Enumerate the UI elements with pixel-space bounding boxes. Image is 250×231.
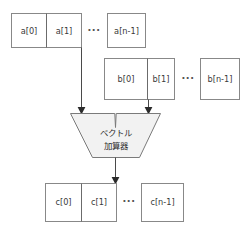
vector-b-cell-1-label: b[1] (153, 74, 170, 84)
vector-a-ellipsis: ··· (87, 25, 100, 36)
vector-b-ellipsis: ··· (181, 73, 194, 84)
vector-b-cell-0-label: b[0] (118, 74, 135, 84)
vector-c-cell-0-label: c[0] (55, 197, 71, 207)
vector-b-cell-last-label: b[n-1] (208, 74, 233, 84)
vector-adder-diagram: a[0] a[1] ··· a[n-1] b[0] b[1] ··· b[n-1… (0, 0, 250, 231)
vector-c-row: c[0] c[1] ··· c[n-1] (46, 184, 184, 222)
arrow-b-to-adder (145, 100, 153, 115)
vector-a-cell-0-label: a[0] (21, 26, 38, 36)
vector-c-ellipsis: ··· (122, 196, 135, 207)
vector-a-cell-1-label: a[1] (56, 26, 73, 36)
arrow-a-to-adder (78, 48, 86, 115)
vector-b-row: b[0] b[1] ··· b[n-1] (105, 59, 240, 100)
adder-label-line2: 加算器 (104, 141, 129, 151)
diagram-canvas: a[0] a[1] ··· a[n-1] b[0] b[1] ··· b[n-1… (0, 0, 250, 231)
vector-c-cell-last-label: c[n-1] (150, 197, 174, 207)
vector-a-cell-last-label: a[n-1] (114, 26, 139, 36)
vector-a-row: a[0] a[1] ··· a[n-1] (12, 14, 146, 48)
adder-label-line1: ベクトル (100, 128, 132, 138)
arrow-adder-to-c (112, 158, 120, 185)
vector-c-cell-1-label: c[1] (91, 197, 107, 207)
vector-adder-unit[interactable]: ベクトル 加算器 (71, 114, 161, 158)
